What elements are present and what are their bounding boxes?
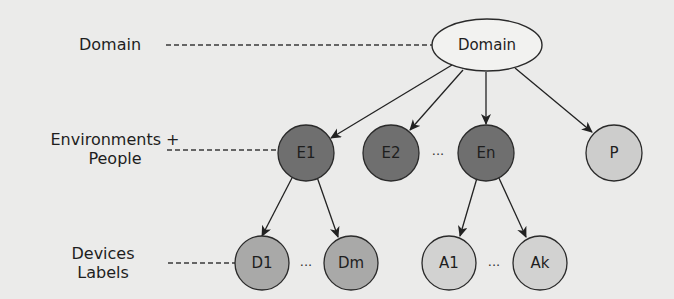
node-en: En — [458, 125, 514, 181]
level-label-devices-line1: Devices — [53, 244, 153, 263]
level-label-devices-line2: Labels — [53, 263, 153, 282]
node-domain-root: Domain — [432, 19, 542, 71]
edge-en-ak — [498, 176, 526, 237]
level-label-environments-line1: Environments + — [40, 130, 190, 149]
node-ak: Ak — [513, 236, 567, 290]
node-p-label: P — [609, 144, 618, 162]
node-d1: D1 — [235, 236, 289, 290]
ellipsis-labels: ... — [488, 254, 500, 269]
node-dm: Dm — [324, 236, 378, 290]
node-ak-label: Ak — [531, 254, 550, 272]
node-e1: E1 — [278, 125, 334, 181]
node-a1: A1 — [422, 236, 476, 290]
edge-domain-p — [515, 68, 592, 132]
node-p: P — [586, 125, 642, 181]
ellipsis-devices: ... — [300, 254, 312, 269]
node-en-label: En — [477, 144, 496, 162]
edge-domain-e2 — [410, 70, 463, 130]
node-e1-label: E1 — [296, 144, 315, 162]
node-dm-label: Dm — [338, 254, 364, 272]
level-label-domain-line1: Domain — [60, 35, 160, 54]
level-label-environments-line2: People — [40, 149, 190, 168]
node-d1-label: D1 — [251, 254, 272, 272]
node-e2-label: E2 — [381, 144, 400, 162]
edge-e1-d1 — [262, 176, 293, 236]
node-domain-label: Domain — [458, 36, 516, 54]
level-label-domain: Domain — [60, 35, 160, 54]
node-a1-label: A1 — [439, 254, 459, 272]
ellipsis-environments: ... — [432, 143, 444, 158]
node-e2: E2 — [363, 125, 419, 181]
level-label-devices-labels: Devices Labels — [53, 244, 153, 282]
edge-en-a1 — [460, 178, 477, 236]
edge-e1-dm — [317, 177, 338, 237]
level-label-environments-people: Environments + People — [40, 130, 190, 168]
